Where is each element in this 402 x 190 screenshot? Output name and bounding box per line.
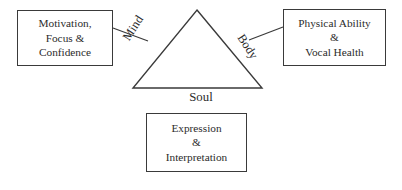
box-soul-line-1: Expression [171, 121, 221, 135]
box-mind[interactable]: Motivation, Focus & Confidence [17, 10, 113, 66]
box-soul-line-2: & [192, 135, 201, 149]
edge-label-soul: Soul [0, 90, 402, 105]
edge-label-mind: Mind [120, 13, 147, 44]
box-body-line-2: & [330, 30, 339, 44]
box-body[interactable]: Physical Ability & Vocal Health [283, 9, 386, 66]
box-mind-line-1: Motivation, [38, 16, 91, 30]
diagram-canvas: Motivation, Focus & Confidence Physical … [0, 0, 402, 190]
box-mind-line-2: Focus & [46, 31, 85, 45]
box-mind-line-3: Confidence [39, 45, 91, 59]
box-body-line-3: Vocal Health [305, 45, 363, 59]
box-soul-line-3: Interpretation [166, 150, 227, 164]
box-body-line-1: Physical Ability [298, 16, 371, 30]
box-soul[interactable]: Expression & Interpretation [146, 113, 247, 172]
edge-label-body: Body [234, 31, 261, 62]
body-connector-line [249, 27, 283, 40]
